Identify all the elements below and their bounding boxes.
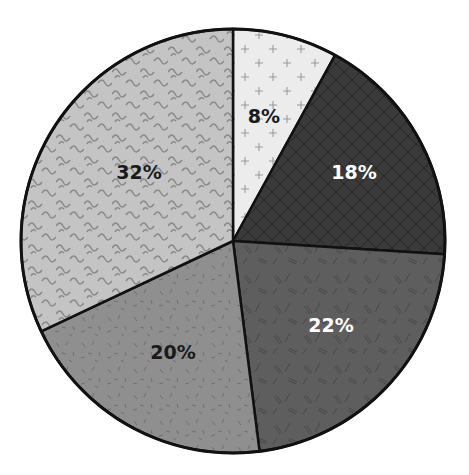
pie-slices [21, 29, 445, 453]
slice-label: 20% [150, 341, 195, 363]
slice-label: 32% [116, 161, 161, 183]
pie-chart: 8%18%22%20%32% [0, 0, 469, 475]
slice-label: 18% [331, 161, 376, 183]
slice-label: 8% [248, 105, 280, 127]
slice-label: 22% [308, 314, 353, 336]
pie-slice-pattern [233, 241, 445, 451]
